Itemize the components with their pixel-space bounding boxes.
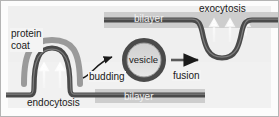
label-fusion: fusion <box>172 70 201 81</box>
label-exocytosis: exocytosis <box>199 3 246 14</box>
label-bilayer-bottom: bilayer <box>124 91 153 102</box>
label-protein-coat-line1: protein <box>11 28 42 40</box>
label-endocytosis: endocytosis <box>27 97 80 108</box>
label-bilayer-top: bilayer <box>134 13 163 24</box>
label-protein-coat: protein coat <box>10 28 43 52</box>
label-protein-coat-line2: coat <box>11 40 42 52</box>
label-vesicle: vesicle <box>129 54 158 65</box>
label-budding: budding <box>88 71 126 82</box>
vesicle-trafficking-diagram: protein coat endocytosis budding vesicle… <box>0 0 279 117</box>
